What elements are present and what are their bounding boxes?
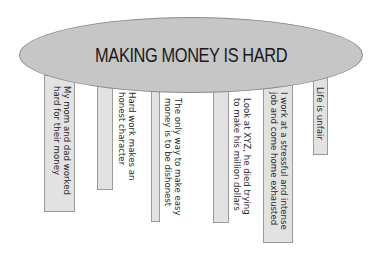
leg-3-label: The only way to make easy money is to be… [163, 98, 183, 220]
leg-4-label: Look at XYZ, he died trying to make his … [232, 98, 252, 222]
leg-3-box [151, 85, 160, 222]
title-ellipse: MAKING MONEY IS HARD [19, 17, 363, 93]
leg-4-box [213, 85, 229, 223]
leg-5-label: I work at a stressful and intense job an… [269, 92, 289, 242]
leg-6-label: Life is unfair [315, 87, 325, 153]
leg-2-box [97, 80, 113, 190]
diagram-title: MAKING MONEY IS HARD [95, 43, 287, 67]
leg-1-label: My mom and dad worked hard for their mon… [52, 86, 72, 210]
leg-2-label: Hard work makes an honest character [117, 92, 137, 192]
